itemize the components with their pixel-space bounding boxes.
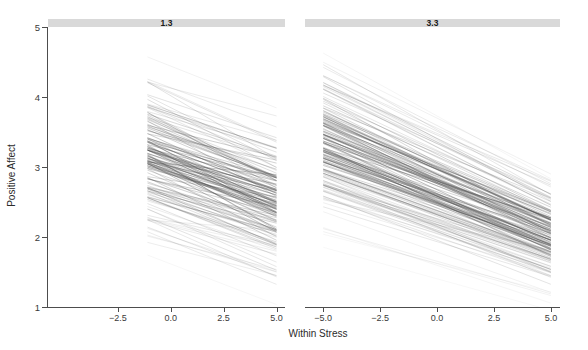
x-axis-tick-label: 2.5 <box>488 313 501 323</box>
x-axis-label: Within Stress <box>48 328 588 339</box>
x-axis-tick-mark <box>277 307 278 312</box>
y-axis-tick-label: 1 <box>0 302 40 313</box>
spaghetti-line <box>323 229 551 294</box>
y-axis-label: Positive Affect <box>2 0 20 350</box>
x-axis-line-right <box>305 307 560 308</box>
spaghetti-line <box>147 79 276 127</box>
spaghetti-line <box>147 228 276 271</box>
chart-root: Positive Affect 12345 1.3 3.3 −2.50.02.5… <box>0 0 588 350</box>
spaghetti-line <box>323 131 551 227</box>
x-axis-tick-label: 5.0 <box>270 313 283 323</box>
spaghetti-lines-right <box>305 27 560 307</box>
spaghetti-line <box>147 95 276 138</box>
x-axis-tick-mark <box>118 307 119 312</box>
x-axis-tick-label: 5.0 <box>545 313 558 323</box>
x-axis-tick-mark <box>551 307 552 312</box>
x-axis-tick-mark <box>494 307 495 312</box>
y-axis-tick-label: 3 <box>0 162 40 173</box>
spaghetti-line <box>147 57 276 108</box>
facet-panel-right <box>305 27 560 307</box>
x-axis-tick-label: −5.0 <box>314 313 332 323</box>
x-axis-tick-mark <box>437 307 438 312</box>
spaghetti-lines-left <box>48 27 285 307</box>
x-axis-tick-label: 2.5 <box>217 313 230 323</box>
spaghetti-line <box>147 96 276 161</box>
y-axis-tick-label: 2 <box>0 232 40 243</box>
x-axis-line-left <box>48 307 285 308</box>
facet-panel-left <box>48 27 285 307</box>
y-axis-tick-label: 5 <box>0 22 40 33</box>
x-axis-tick-mark <box>171 307 172 312</box>
spaghetti-line <box>323 135 551 234</box>
x-axis-tick-label: 0.0 <box>164 313 177 323</box>
spaghetti-line <box>147 105 276 148</box>
spaghetti-line <box>323 247 551 307</box>
x-axis-tick-mark <box>224 307 225 312</box>
x-axis-tick-mark <box>323 307 324 312</box>
y-axis-tick-label: 4 <box>0 92 40 103</box>
x-axis-tick-label: 0.0 <box>431 313 444 323</box>
x-axis-tick-label: −2.5 <box>371 313 389 323</box>
spaghetti-line <box>147 242 276 275</box>
x-axis-tick-mark <box>380 307 381 312</box>
x-axis-tick-label: −2.5 <box>109 313 127 323</box>
